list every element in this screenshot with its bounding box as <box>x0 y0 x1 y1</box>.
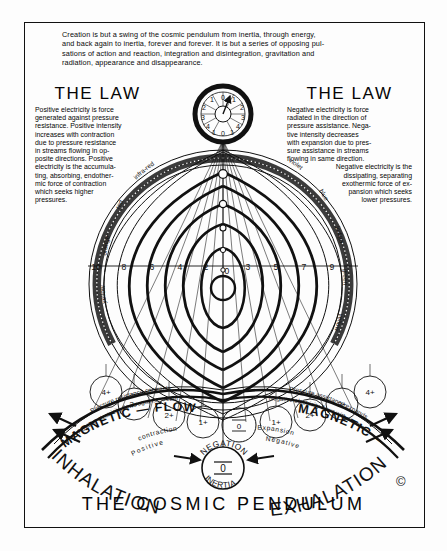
dial-number-top: 0 <box>221 94 225 101</box>
dial-number-left: 4 <box>206 123 210 130</box>
scale-value-left: 4 <box>178 262 183 272</box>
dial-number-left: 2 <box>202 104 206 111</box>
dial-number-bottom: 1 <box>212 129 216 136</box>
base-circle-label: 0 <box>237 422 242 431</box>
pendulum-shaft <box>219 140 228 478</box>
dial-number-right: 4 <box>236 123 240 130</box>
dial-number-right: 2 <box>240 104 244 111</box>
base-circle-label: 4+ <box>365 388 374 397</box>
band-sublabel-right-2: Negative <box>265 435 301 450</box>
cosmic-pendulum-diagram: infra-red red orange yellow violet blue … <box>24 22 423 526</box>
scale-value-left: 6 <box>150 262 155 272</box>
band-sublabel-left-1: contraction <box>137 425 178 442</box>
base-circle: 4+ <box>354 376 386 408</box>
scale-value-left: 2 <box>204 262 209 272</box>
page-title: THE COSMIC PENDULUM <box>0 494 447 515</box>
band-sublabel-right-1: Expansion <box>257 423 295 436</box>
scale-value-right: 7 <box>302 262 307 272</box>
band-sublabel-left-2: Positive <box>130 438 165 457</box>
copyright-symbol: © <box>396 474 406 489</box>
cosmic-pendulum-page: Creation is but a swing of the cosmic pe… <box>0 0 447 551</box>
dial-number-bottom: 1 <box>230 129 234 136</box>
scale-value-left: 8 <box>122 262 127 272</box>
pendulum-bob-dial: 0 1 2 3 4 1 2 3 4 1 0 1 <box>195 86 251 142</box>
dial-number-right: 1 <box>232 96 236 103</box>
inertia-node: 0 NEGATION INERTIA <box>198 438 250 490</box>
scale-value-center: 0 <box>225 266 230 276</box>
scale-value-right: 5 <box>274 262 279 272</box>
base-circle-label: 4+ <box>101 388 110 397</box>
dial-number-left: 1 <box>210 96 214 103</box>
scale-value-left: 10 <box>91 262 101 272</box>
inertia-value: 0 <box>220 463 226 474</box>
scale-value-right: 3 <box>246 262 251 272</box>
dial-number-right: 3 <box>241 114 245 121</box>
spectrum-labels: infra-red red orange yellow violet blue … <box>98 156 349 332</box>
dial-number-left: 3 <box>201 114 205 121</box>
base-circle-label: 1+ <box>198 418 207 427</box>
dial-number-bottom: 0 <box>221 130 225 137</box>
scale-value-right: 9 <box>330 262 335 272</box>
